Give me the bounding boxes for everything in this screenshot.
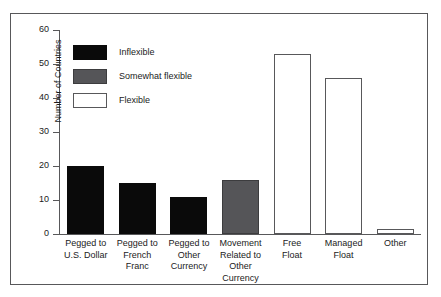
x-axis-label: MovementRelated toOther Currency — [215, 238, 267, 284]
legend-label: Somewhat flexible — [119, 71, 192, 81]
legend-swatch-inflexible — [73, 45, 107, 60]
chart-figure: Number of Countries 0102030405060 Pegged… — [10, 13, 428, 285]
y-tick: 30 — [53, 132, 60, 133]
bar[interactable] — [170, 197, 207, 234]
x-axis-label: Pegged toFrench Franc — [112, 238, 164, 273]
y-tick: 40 — [53, 98, 60, 99]
x-axis-label: ManagedFloat — [318, 238, 370, 261]
chart-legend: InflexibleSomewhat flexibleFlexible — [73, 40, 253, 112]
bar[interactable] — [377, 229, 414, 234]
bar[interactable] — [119, 183, 156, 234]
legend-item-flexible[interactable]: Flexible — [73, 88, 253, 112]
y-tick: 20 — [53, 166, 60, 167]
x-axis-label: Other — [369, 238, 421, 250]
legend-label: Flexible — [119, 95, 150, 105]
y-tick: 60 — [53, 30, 60, 31]
y-tick-label: 60 — [39, 24, 49, 35]
legend-item-inflexible[interactable]: Inflexible — [73, 40, 253, 64]
bar[interactable] — [274, 54, 311, 234]
bar[interactable] — [222, 180, 259, 234]
bar-slot — [377, 30, 414, 234]
bar[interactable] — [325, 78, 362, 234]
y-tick-label: 0 — [44, 228, 49, 239]
y-tick: 0 — [53, 234, 60, 235]
legend-item-somewhat[interactable]: Somewhat flexible — [73, 64, 253, 88]
x-axis-label: Pegged toU.S. Dollar — [60, 238, 112, 261]
legend-label: Inflexible — [119, 47, 155, 57]
x-axis-label: Pegged toOtherCurrency — [163, 238, 215, 273]
y-tick-label: 50 — [39, 58, 49, 69]
bar[interactable] — [67, 166, 104, 234]
x-axis-line — [59, 234, 421, 235]
y-tick-label: 40 — [39, 92, 49, 103]
y-tick-label: 20 — [39, 160, 49, 171]
legend-swatch-flexible — [73, 93, 107, 108]
legend-swatch-somewhat — [73, 69, 107, 84]
y-tick: 50 — [53, 64, 60, 65]
x-axis-labels: Pegged toU.S. DollarPegged toFrench Fran… — [60, 238, 421, 284]
y-tick-label: 10 — [39, 194, 49, 205]
y-tick-label: 30 — [39, 126, 49, 137]
y-tick: 10 — [53, 200, 60, 201]
bar-slot — [274, 30, 311, 234]
x-axis-label: FreeFloat — [266, 238, 318, 261]
bar-slot — [325, 30, 362, 234]
